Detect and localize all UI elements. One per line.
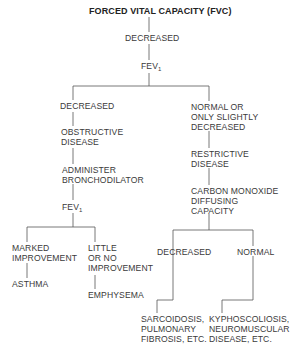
node-marked-improvement: MARKED IMPROVEMENT <box>12 243 77 263</box>
node-dlco-normal: NORMAL <box>237 247 274 257</box>
node-co-diffusing-capacity: CARBON MONOXIDE DIFFUSING CAPACITY <box>191 186 278 216</box>
node-sarcoidosis: SARCOIDOSIS, PULMONARY FIBROSIS, ETC. <box>141 314 207 344</box>
connector-lines <box>0 0 295 361</box>
fev1-label: FEV <box>62 202 79 212</box>
node-restrictive-disease: RESTRICTIVE DISEASE <box>191 149 249 169</box>
node-fev1-top: FEV1 <box>141 61 161 74</box>
node-kyphoscoliosis: KYPHOSCOLIOSIS, NEUROMUSCULAR DISEASE, E… <box>209 314 290 344</box>
node-fvc-decreased: DECREASED <box>125 33 179 43</box>
node-fev1-left: FEV1 <box>62 202 82 215</box>
node-emphysema: EMPHYSEMA <box>88 290 144 300</box>
diagram-title: FORCED VITAL CAPACITY (FVC) <box>89 6 232 16</box>
node-asthma: ASTHMA <box>12 279 48 289</box>
node-right-normal: NORMAL OR ONLY SLIGHTLY DECREASED <box>191 102 258 132</box>
node-obstructive-disease: OBSTRUCTIVE DISEASE <box>61 127 123 147</box>
node-little-improvement: LITTLE OR NO IMPROVEMENT <box>88 243 153 273</box>
fev1-subscript: 1 <box>158 66 161 72</box>
node-left-decreased: DECREASED <box>60 101 114 111</box>
node-administer-bronchodilator: ADMINISTER BRONCHODILATOR <box>62 165 144 185</box>
fev1-subscript: 1 <box>79 207 82 213</box>
node-dlco-decreased: DECREASED <box>157 247 211 257</box>
fev1-label: FEV <box>141 61 158 71</box>
